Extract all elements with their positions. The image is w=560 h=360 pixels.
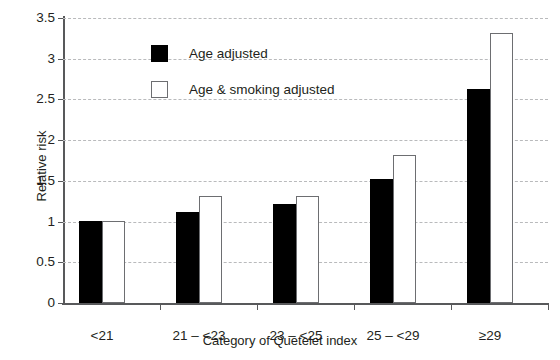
gridline bbox=[63, 18, 548, 19]
plot-area: 00.511.522.533.5 <2121 – <2323 – <2525 –… bbox=[63, 18, 548, 303]
y-axis-tick-label: 0.5 bbox=[36, 256, 55, 270]
legend-item: Age & smoking adjusted bbox=[151, 81, 335, 98]
x-axis-tick-mark bbox=[354, 303, 355, 310]
bar bbox=[79, 221, 102, 303]
y-axis-tick-label: 2.5 bbox=[36, 93, 55, 107]
y-axis-tick-mark bbox=[58, 140, 63, 141]
bar bbox=[199, 196, 222, 303]
x-axis-tick-mark bbox=[548, 303, 549, 310]
legend-label: Age & smoking adjusted bbox=[189, 83, 335, 97]
y-axis-tick-label: 1.5 bbox=[36, 174, 55, 188]
y-axis-tick-label: 3 bbox=[47, 52, 55, 66]
y-axis-tick-label: 2 bbox=[47, 133, 55, 147]
bar bbox=[273, 204, 296, 303]
bar bbox=[370, 179, 393, 303]
y-axis-tick-mark bbox=[58, 59, 63, 60]
y-axis-tick-label: 3.5 bbox=[36, 11, 55, 25]
y-axis-tick-mark bbox=[58, 99, 63, 100]
bar-chart-figure: Relative risk 00.511.522.533.5 <2121 – <… bbox=[0, 0, 560, 360]
y-axis-tick-mark bbox=[58, 181, 63, 182]
bar bbox=[393, 155, 416, 303]
bar bbox=[102, 221, 125, 303]
legend-swatch-icon bbox=[151, 45, 168, 62]
bar bbox=[296, 196, 319, 303]
x-axis-tick-mark bbox=[160, 303, 161, 310]
bar bbox=[467, 89, 490, 303]
y-axis-title: Relative risk bbox=[35, 131, 48, 202]
x-axis-title: Category of Quetelet index bbox=[0, 334, 560, 347]
x-axis-tick-mark bbox=[451, 303, 452, 310]
y-axis-tick-label: 0 bbox=[47, 296, 55, 310]
legend-swatch-icon bbox=[151, 81, 168, 98]
x-axis-line bbox=[62, 303, 548, 305]
bar bbox=[490, 33, 513, 303]
y-axis-tick-mark bbox=[58, 262, 63, 263]
gridline bbox=[63, 59, 548, 60]
y-axis-tick-mark bbox=[58, 222, 63, 223]
bar bbox=[176, 212, 199, 303]
x-axis-tick-mark bbox=[257, 303, 258, 310]
y-axis-tick-label: 1 bbox=[47, 215, 55, 229]
y-axis-tick-mark bbox=[58, 18, 63, 19]
y-axis-tick-mark bbox=[58, 303, 63, 304]
legend-label: Age adjusted bbox=[189, 47, 268, 61]
legend-item: Age adjusted bbox=[151, 45, 268, 62]
